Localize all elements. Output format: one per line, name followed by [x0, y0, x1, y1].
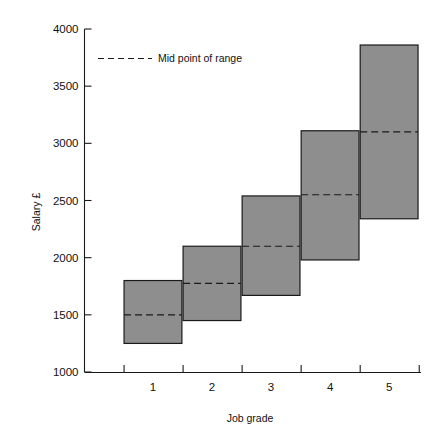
y-tick-label: 1000	[53, 366, 79, 378]
salary-range-bar	[124, 281, 182, 344]
chart-canvas: 1000150020002500300035004000 12345 Salar…	[0, 0, 442, 441]
x-axis-title: Job grade	[227, 412, 274, 424]
x-tick-label: 4	[327, 381, 334, 393]
y-tick-label: 4000	[53, 23, 79, 35]
bars-group	[124, 45, 418, 343]
legend-label-mid-point: Mid point of range	[158, 52, 242, 64]
x-tick-label: 3	[268, 381, 274, 393]
y-tick-label: 3000	[53, 137, 79, 149]
salary-range-chart: 1000150020002500300035004000 12345 Salar…	[0, 0, 442, 441]
y-tick-label: 3500	[53, 80, 79, 92]
y-tick-label: 2500	[53, 195, 79, 207]
salary-range-bar	[242, 196, 300, 295]
y-axis-title: Salary £	[30, 193, 42, 232]
x-tick-label: 2	[209, 381, 215, 393]
y-tick-label: 1500	[53, 309, 79, 321]
y-axis-ticks: 1000150020002500300035004000	[53, 23, 92, 378]
x-axis-ticks: 12345	[124, 365, 419, 393]
salary-range-bar	[301, 131, 359, 260]
x-axis: 12345	[85, 365, 422, 393]
x-tick-label: 5	[386, 381, 392, 393]
y-axis: 1000150020002500300035004000	[53, 23, 92, 378]
legend: Mid point of range	[98, 52, 242, 64]
y-tick-label: 2000	[53, 252, 79, 264]
x-tick-label: 1	[150, 381, 156, 393]
